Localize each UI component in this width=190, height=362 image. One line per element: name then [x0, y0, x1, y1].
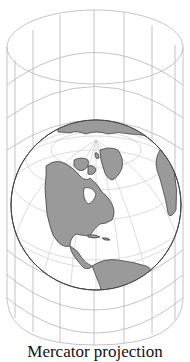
figure-caption: Mercator projection: [0, 342, 190, 362]
south-america: [92, 260, 151, 296]
globe: [1, 116, 190, 296]
